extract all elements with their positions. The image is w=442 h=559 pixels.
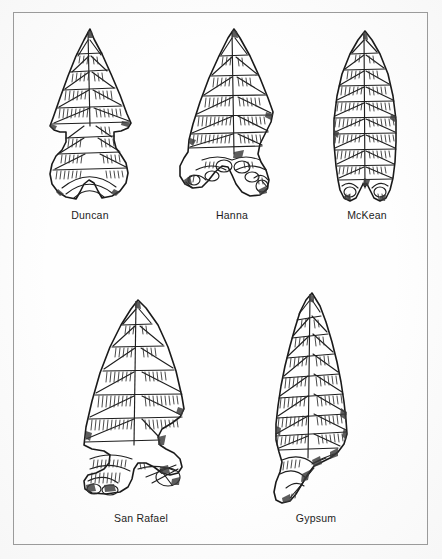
specimen-drawing-san-rafael <box>76 297 192 503</box>
specimen-drawing-hanna <box>178 26 286 206</box>
caption-duncan: Duncan <box>49 209 131 221</box>
specimen-drawing-duncan <box>44 26 136 204</box>
caption-san-rafael: San Rafael <box>93 512 189 524</box>
caption-mckean: McKean <box>329 209 405 221</box>
specimen-drawing-mckean <box>328 28 402 206</box>
caption-hanna: Hanna <box>189 209 275 221</box>
figure-plate: Duncan <box>0 0 442 559</box>
specimen-drawing-gypsum <box>268 290 356 506</box>
caption-gypsum: Gypsum <box>275 512 357 524</box>
